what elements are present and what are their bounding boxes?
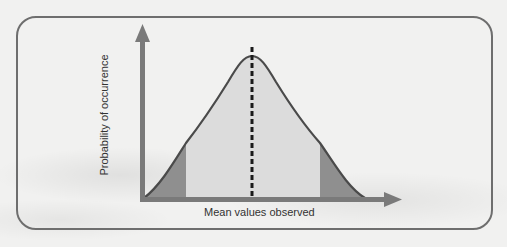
x-axis-arrow-icon [384,192,402,207]
y-axis-arrow-icon [135,24,150,42]
y-axis-label: Probability of occurrence [98,54,110,175]
y-axis [135,24,150,202]
x-axis-label: Mean values observed [204,206,315,218]
